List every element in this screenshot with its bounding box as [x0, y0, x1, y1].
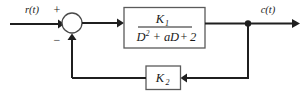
summing-junction [62, 13, 82, 33]
error-wire [82, 19, 124, 28]
forward-denominator: D 2 + a D + 2 [135, 29, 196, 44]
feedback-arrowhead-up-icon [68, 34, 77, 41]
summing-plus-sign: + [54, 3, 61, 17]
forward-numerator-subscript: 1 [165, 19, 169, 28]
output-wire [248, 19, 300, 28]
denominator-plus-second: + [181, 30, 188, 44]
denominator-D-second: D [169, 30, 179, 44]
forward-numerator-symbol: K [155, 12, 165, 26]
denominator-D-first: D [135, 30, 145, 44]
block-diagram-canvas: r(t) c(t) + − K 1 D 2 + a D + 2 K 2 [0, 0, 308, 98]
denominator-plus-first: + [154, 30, 161, 44]
input-wire [10, 20, 65, 29]
feedback-gain-subscript: 2 [166, 78, 170, 87]
denominator-exponent-two: 2 [146, 29, 150, 38]
denominator-constant-two: 2 [190, 30, 196, 44]
feedback-gain-symbol: K [155, 71, 165, 85]
error-arrowhead-icon [117, 19, 124, 28]
input-signal-label: r(t) [25, 4, 40, 16]
output-signal-label: c(t) [261, 4, 276, 16]
summing-minus-sign: − [54, 33, 61, 47]
output-arrowhead-icon [292, 19, 300, 28]
feedback-arrowhead-icon [181, 74, 188, 83]
